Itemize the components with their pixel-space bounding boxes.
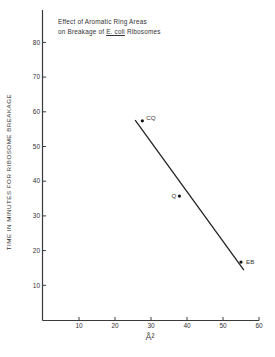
y-tick-label: 60 [33, 108, 41, 115]
y-tick-label: 70 [33, 73, 41, 80]
chart-plot: 1020304050607080102030405060CQQEB [0, 0, 275, 357]
y-tick-label: 50 [33, 143, 41, 150]
data-point [239, 260, 242, 263]
data-point-label: CQ [146, 114, 155, 121]
x-tick-label: 40 [183, 322, 191, 329]
y-tick-label: 20 [33, 247, 41, 254]
x-tick-label: 50 [219, 322, 227, 329]
data-point-label: Q [172, 192, 177, 199]
y-tick-label: 80 [33, 39, 41, 46]
data-point-label: EB [246, 258, 254, 265]
x-tick-label: 10 [75, 322, 83, 329]
x-tick-label: 60 [255, 322, 263, 329]
data-point [141, 119, 144, 122]
x-tick-label: 30 [147, 322, 155, 329]
y-tick-label: 40 [33, 177, 41, 184]
y-tick-label: 10 [33, 282, 41, 289]
data-point [178, 195, 181, 198]
x-tick-label: 20 [111, 322, 119, 329]
y-tick-label: 30 [33, 212, 41, 219]
regression-line [135, 120, 244, 270]
